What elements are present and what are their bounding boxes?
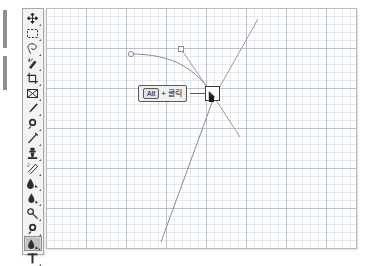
alt-click-callout: Alt + 클릭	[138, 85, 187, 102]
vector-path-layer	[47, 9, 356, 248]
tool-rectangular-marquee[interactable]	[24, 26, 42, 41]
tool-blur[interactable]	[24, 191, 42, 206]
tool-corner-marker	[38, 248, 40, 250]
tool-magic-wand[interactable]	[24, 56, 42, 71]
edge-segment-upper	[3, 10, 7, 48]
tool-brush[interactable]	[24, 116, 42, 131]
bezier-handle-circle	[128, 51, 133, 56]
tool-pen[interactable]	[24, 236, 42, 251]
tool-gradient[interactable]	[24, 176, 42, 191]
plus-sign: +	[161, 89, 166, 98]
tool-slice[interactable]	[24, 86, 42, 101]
edge-segment-lower	[3, 56, 7, 90]
tool-clone-stamp[interactable]	[24, 131, 42, 146]
tools-palette[interactable]	[22, 8, 44, 255]
path-segment-main	[161, 97, 214, 242]
callout-connector-line	[190, 93, 206, 94]
tool-dodge[interactable]	[24, 206, 42, 221]
active-anchor-point[interactable]	[209, 97, 214, 102]
alt-key-cap: Alt	[143, 88, 159, 99]
click-label: 클릭	[168, 89, 182, 98]
tool-crop[interactable]	[24, 71, 42, 86]
window-left-edge	[0, 0, 10, 263]
bezier-handle-square	[179, 47, 184, 52]
tool-lasso[interactable]	[24, 41, 42, 56]
tool-eraser[interactable]	[24, 161, 42, 176]
tool-history-brush[interactable]	[24, 146, 42, 161]
document-canvas[interactable]	[46, 8, 357, 249]
tool-path-selection[interactable]	[24, 221, 42, 236]
direction-handle-line-down-right	[214, 97, 240, 137]
tool-type[interactable]	[24, 251, 42, 266]
tool-healing-brush[interactable]	[24, 101, 42, 116]
tool-move[interactable]	[24, 11, 42, 26]
direction-handle-line-up-right	[214, 19, 258, 97]
